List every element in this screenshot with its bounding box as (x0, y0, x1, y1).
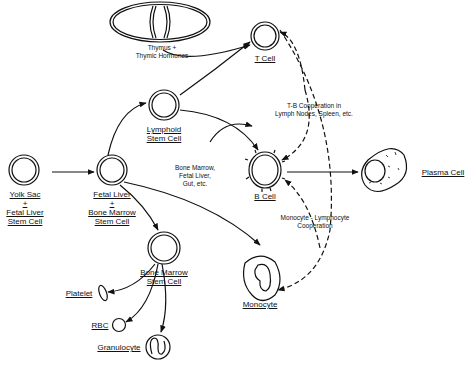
yolk-sac-icon (9, 155, 39, 185)
b-cell-label: B Cell (245, 192, 285, 201)
plasma-cell-label: Plasma Cell (415, 168, 471, 177)
b-cell-icon (245, 150, 285, 192)
fetal-liver-stem-cell-label: Fetal Liver+Bone MarrowStem Cell (80, 190, 144, 226)
bone-marrow-stem-cell-icon (148, 232, 180, 264)
bone-marrow-stem-cell-label: Bone MarrowStem Cell (134, 268, 194, 286)
cell-lineage-diagram: Thymus +Thymic Hormones T Cell LymphoidS… (0, 0, 471, 367)
t-cell-icon (251, 22, 279, 50)
platelet-label: Platelet (62, 289, 96, 298)
plasma-cell-icon (362, 149, 407, 192)
diagram-canvas (0, 0, 471, 367)
granulocyte-icon (146, 335, 170, 359)
dashed-cooperation-arrows (278, 30, 331, 290)
rbc-icon (113, 319, 126, 332)
fetal-liver-stem-cell-icon (97, 155, 127, 185)
tb-cooperation-note: T-B Cooperation inLymph Nodes, Spleen, e… (264, 102, 364, 118)
thymus-label: Thymus +Thymic Hormones (122, 44, 202, 60)
t-cell-label: T Cell (245, 54, 285, 63)
rbc-label: RBC (88, 321, 112, 330)
lymphoid-stem-cell-label: LymphoidStem Cell (136, 125, 192, 143)
thymus-icon (110, 2, 210, 42)
monocyte-cooperation-note: Monocyte - LymphocyteCooperation (265, 214, 365, 230)
b-cell-source-note: Bone Marrow,Fetal Liver,Gut, etc. (165, 164, 225, 188)
lymphoid-stem-cell-icon (149, 90, 179, 120)
platelet-icon (97, 284, 109, 301)
granulocyte-label: Granulocyte (92, 343, 146, 352)
monocyte-icon (244, 256, 280, 300)
yolk-sac-label: Yolk Sac+Fetal LiverStem Cell (0, 190, 50, 226)
monocyte-label: Monocyte (235, 300, 285, 309)
